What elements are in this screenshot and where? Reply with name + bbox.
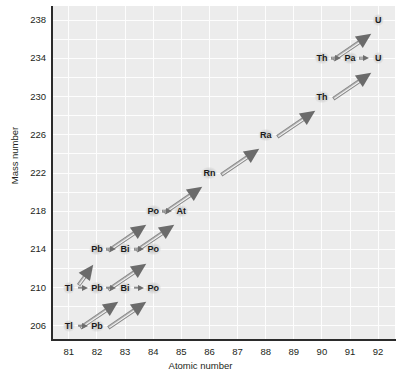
y-tick-label: 218 (6, 205, 46, 216)
arrow-head-icon (82, 323, 88, 329)
beta-decay-arrow (106, 245, 116, 253)
beta-decay-arrow (359, 54, 369, 62)
nuclide-label: Pb (89, 320, 105, 332)
nuclide-label: Po (145, 205, 161, 217)
arrow-head-icon (363, 55, 369, 61)
gridline-horizontal (52, 153, 395, 154)
nuclide-label: Rn (201, 167, 217, 179)
x-tick-label: 87 (223, 346, 253, 357)
y-tick-label: 238 (6, 14, 46, 25)
x-tick-label: 89 (279, 346, 309, 357)
nuclide-label: At (175, 205, 189, 217)
gridline-horizontal (52, 230, 395, 231)
beta-decay-arrow (134, 245, 144, 253)
arrow-head-icon (110, 285, 116, 291)
gridline-horizontal (52, 134, 395, 135)
x-tick-label: 88 (251, 346, 281, 357)
y-tick-label: 230 (6, 91, 46, 102)
nuclide-label: U (373, 14, 384, 26)
beta-decay-arrow (162, 207, 172, 215)
decay-chain-chart: Mass number Atomic number 20621021421822… (0, 0, 401, 373)
x-tick-label: 83 (110, 346, 140, 357)
nuclide-label: Th (314, 91, 329, 103)
gridline-horizontal (52, 20, 395, 21)
y-tick-label: 226 (6, 129, 46, 140)
arrow-head-icon (138, 285, 144, 291)
arrow-head-icon (110, 246, 116, 252)
beta-decay-arrow (134, 284, 144, 292)
y-tick-label: 234 (6, 52, 46, 63)
arrow-head-icon (138, 246, 144, 252)
y-axis-title: Mass number (9, 116, 20, 196)
beta-decay-arrow (78, 284, 88, 292)
nuclide-label: U (373, 52, 384, 64)
nuclide-label: Pb (89, 282, 105, 294)
nuclide-label: Th (314, 52, 329, 64)
y-axis-line (51, 6, 53, 341)
x-tick-label: 86 (194, 346, 224, 357)
gridline-horizontal (52, 77, 395, 78)
gridline-horizontal (52, 115, 395, 116)
gridline-horizontal (52, 192, 395, 193)
nuclide-label: Pb (89, 243, 105, 255)
x-tick-label: 82 (82, 346, 112, 357)
beta-decay-arrow (331, 54, 341, 62)
gridline-horizontal (52, 268, 395, 269)
y-tick-label: 206 (6, 320, 46, 331)
nuclide-label: Po (145, 282, 161, 294)
arrow-head-icon (335, 55, 341, 61)
nuclide-label: Bi (119, 282, 132, 294)
nuclide-label: Pa (343, 52, 358, 64)
arrow-head-icon (166, 208, 172, 214)
x-tick-label: 84 (138, 346, 168, 357)
nuclide-label: Tl (63, 320, 75, 332)
x-tick-label: 91 (335, 346, 365, 357)
nuclide-label: Po (145, 243, 161, 255)
nuclide-label: Ra (258, 129, 274, 141)
x-tick-label: 85 (166, 346, 196, 357)
gridline-horizontal (52, 211, 395, 212)
gridline-horizontal (52, 39, 395, 40)
y-tick-label: 210 (6, 282, 46, 293)
x-tick-label: 81 (54, 346, 84, 357)
arrow-head-icon (82, 285, 88, 291)
beta-decay-arrow (106, 284, 116, 292)
beta-decay-arrow (78, 322, 88, 330)
x-tick-label: 92 (363, 346, 393, 357)
x-axis-title: Atomic number (0, 360, 401, 371)
x-tick-label: 90 (307, 346, 337, 357)
y-tick-label: 214 (6, 243, 46, 254)
nuclide-label: Tl (63, 282, 75, 294)
y-tick-label: 222 (6, 167, 46, 178)
x-axis-line (51, 339, 396, 341)
nuclide-label: Bi (119, 243, 132, 255)
